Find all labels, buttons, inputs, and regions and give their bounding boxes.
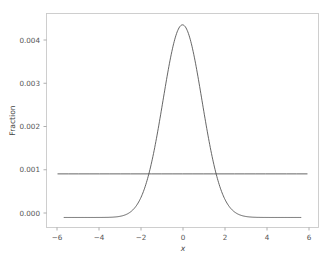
y-tick-label: 0.000 [19, 209, 40, 218]
y-tick-label: 0.003 [19, 79, 40, 88]
y-tick-label: 0.004 [19, 36, 40, 45]
x-tick-label: −6 [52, 233, 63, 242]
x-tick-label: 6 [307, 233, 312, 242]
x-tick-label: 0 [181, 233, 186, 242]
y-axis-title: Fraction [8, 105, 17, 135]
plot-canvas: −6 −4 −2 0 2 4 6 0.000 0.001 0.002 0.003… [0, 0, 335, 262]
chart-figure: −6 −4 −2 0 2 4 6 0.000 0.001 0.002 0.003… [0, 0, 335, 262]
y-tick-label: 0.002 [19, 122, 40, 131]
x-tick-label: −2 [136, 233, 147, 242]
x-axis-title: x [180, 244, 186, 253]
x-tick-label: 4 [265, 233, 270, 242]
figure-background [0, 0, 335, 262]
x-tick-label: 2 [223, 233, 228, 242]
x-tick-label: −4 [94, 233, 105, 242]
y-tick-label: 0.001 [19, 165, 40, 174]
